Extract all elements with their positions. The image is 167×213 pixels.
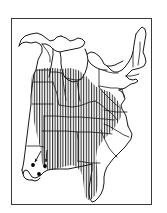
locality-marker-1 xyxy=(31,163,35,167)
distribution-map-figure: Eastern United States Distribution range… xyxy=(0,0,167,213)
locality-marker-2 xyxy=(43,164,47,168)
eastern-us-map xyxy=(0,0,167,213)
locality-marker-3 xyxy=(37,172,41,176)
